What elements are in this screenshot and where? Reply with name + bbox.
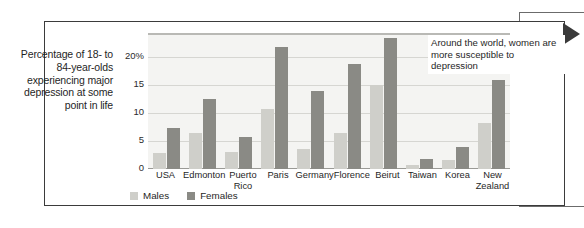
chart-annotation: Around the world, women are more suscept…	[428, 35, 565, 74]
right-arrow-marker-icon	[563, 23, 580, 45]
bar-males	[442, 160, 455, 169]
bar-females	[167, 128, 180, 169]
bar-males	[370, 85, 383, 169]
bar-group	[220, 35, 256, 169]
x-axis-category-labels: USAEdmontonPuerto RicoParisGermanyFloren…	[148, 170, 510, 191]
category-label: USA	[148, 170, 183, 191]
legend-label-females: Females	[200, 190, 238, 201]
y-tick-15: 15	[118, 78, 144, 89]
bar-males	[189, 133, 202, 169]
legend-label-males: Males	[143, 190, 169, 201]
category-label: Germany	[295, 170, 333, 191]
category-label: Taiwan	[405, 170, 440, 191]
bar-group	[365, 35, 401, 169]
bar-males	[297, 149, 310, 169]
bar-group	[329, 35, 365, 169]
legend-item-males: Males	[130, 190, 169, 201]
bar-females	[384, 38, 397, 169]
bar-females	[311, 91, 324, 169]
category-label: Paris	[260, 170, 295, 191]
bar-males	[225, 152, 238, 169]
chart-legend: Males Females	[130, 190, 238, 201]
bottom-right-rule	[519, 206, 584, 207]
category-label: Edmonton	[183, 170, 225, 191]
legend-item-females: Females	[187, 190, 238, 201]
legend-swatch-males-icon	[130, 192, 138, 200]
bar-group	[184, 35, 220, 169]
bar-males	[406, 165, 419, 169]
y-axis-tick-labels: 05101520%	[118, 33, 144, 167]
bar-females	[456, 147, 469, 169]
bar-males	[478, 123, 491, 169]
bar-females	[275, 47, 288, 169]
y-tick-0: 0	[118, 162, 144, 173]
y-tick-10: 10	[118, 106, 144, 117]
top-right-rule	[519, 12, 584, 13]
category-label: Florence	[334, 170, 370, 191]
figure-root: Percentage of 18- to 84-year-olds experi…	[0, 0, 584, 228]
bar-males	[334, 133, 347, 169]
bar-females	[239, 137, 252, 169]
y-tick-20: 20%	[118, 50, 144, 61]
bar-males	[261, 109, 274, 169]
bar-females	[492, 80, 505, 169]
bar-females	[203, 99, 216, 169]
category-label: Korea	[440, 170, 475, 191]
chart-caption: Percentage of 18- to 84-year-olds experi…	[10, 48, 113, 112]
bar-females	[420, 159, 433, 169]
category-label: New Zealand	[475, 170, 510, 191]
category-label: Beirut	[370, 170, 405, 191]
bar-group	[148, 35, 184, 169]
bar-males	[153, 153, 166, 169]
y-tick-5: 5	[118, 134, 144, 145]
bar-group	[257, 35, 293, 169]
bar-group	[293, 35, 329, 169]
category-label: Puerto Rico	[225, 170, 260, 191]
bar-females	[348, 64, 361, 169]
legend-swatch-females-icon	[187, 192, 195, 200]
